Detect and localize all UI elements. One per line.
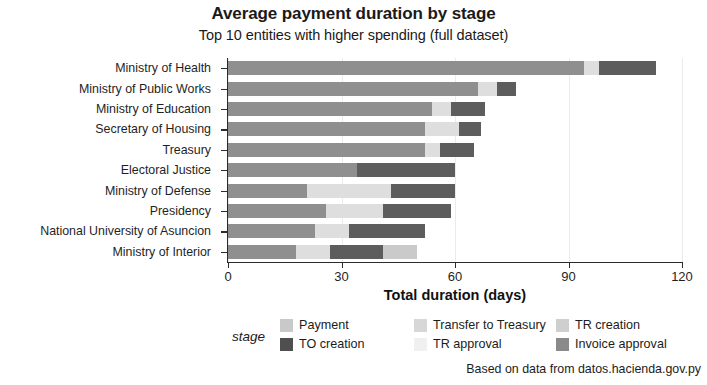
y-axis-tick: [221, 129, 227, 130]
legend-item[interactable]: Transfer to Treasury: [414, 316, 546, 335]
y-axis-tick: [221, 191, 227, 192]
bar-segment[interactable]: [425, 143, 440, 157]
bar-segment[interactable]: [228, 204, 326, 218]
legend-item[interactable]: TO creation: [280, 335, 365, 354]
y-axis-tick-label: Ministry of Health: [0, 62, 220, 74]
bar-segment[interactable]: [228, 122, 425, 136]
bar-segment[interactable]: [307, 184, 390, 198]
stacked-bar[interactable]: [228, 143, 474, 157]
chart-title: Average payment duration by stage: [0, 4, 707, 24]
bar-segment[interactable]: [459, 122, 482, 136]
bar-row: [228, 180, 682, 200]
legend-item-label: TO creation: [299, 338, 365, 351]
stacked-bar[interactable]: [228, 102, 485, 116]
bar-segment[interactable]: [228, 143, 425, 157]
bar-segment[interactable]: [228, 61, 584, 75]
stacked-bar[interactable]: [228, 245, 417, 259]
stacked-bar[interactable]: [228, 163, 455, 177]
bar-segment[interactable]: [451, 102, 485, 116]
x-axis-tick-label: 0: [198, 269, 258, 284]
x-axis-title: Total duration (days): [227, 287, 683, 303]
bar-segment[interactable]: [425, 122, 459, 136]
bar-segment[interactable]: [228, 224, 315, 238]
x-axis-tick-label: 90: [539, 269, 599, 284]
bar-segment[interactable]: [326, 204, 383, 218]
legend-swatch-icon: [414, 319, 427, 332]
y-axis-tick-label: Ministry of Interior: [0, 246, 220, 258]
bar-segment[interactable]: [584, 61, 599, 75]
stacked-bar[interactable]: [228, 61, 656, 75]
y-axis-tick: [221, 252, 227, 253]
stacked-bar[interactable]: [228, 224, 425, 238]
legend-column: PaymentTO creation: [280, 316, 365, 354]
bar-segment[interactable]: [391, 184, 455, 198]
y-axis-tick: [221, 231, 227, 232]
x-axis-tick: [228, 263, 229, 268]
bar-segment[interactable]: [432, 102, 451, 116]
bar-segment[interactable]: [296, 245, 330, 259]
bar-segment[interactable]: [330, 245, 383, 259]
y-axis-tick-label: Ministry of Defense: [0, 185, 220, 197]
y-axis-tick-label: National University of Asuncion: [0, 225, 220, 237]
x-axis-tick-label: 60: [425, 269, 485, 284]
gridline: [682, 58, 683, 262]
bar-segment[interactable]: [228, 245, 296, 259]
bar-segment[interactable]: [228, 163, 357, 177]
bar-segment[interactable]: [383, 204, 451, 218]
x-axis-tick: [682, 263, 683, 268]
y-axis-tick: [221, 211, 227, 212]
y-axis-tick-label: Treasury: [0, 144, 220, 156]
stacked-bar[interactable]: [228, 122, 481, 136]
bar-row: [228, 201, 682, 221]
stacked-bar[interactable]: [228, 184, 455, 198]
stacked-bar[interactable]: [228, 82, 516, 96]
legend-item[interactable]: Payment: [280, 316, 365, 335]
bar-row: [228, 119, 682, 139]
bar-segment[interactable]: [315, 224, 349, 238]
y-axis-tick: [221, 109, 227, 110]
bar-row: [228, 221, 682, 241]
legend-item[interactable]: Invoice approval: [556, 335, 667, 354]
bar-row: [228, 99, 682, 119]
y-axis-tick-label: Ministry of Education: [0, 103, 220, 115]
chart-caption: Based on data from datos.hacienda.gov.py: [466, 362, 701, 376]
bar-segment[interactable]: [478, 82, 497, 96]
legend-item-label: Invoice approval: [575, 338, 667, 351]
legend-item-label: TR approval: [433, 338, 502, 351]
x-axis-tick-label: 30: [312, 269, 372, 284]
legend-column: TR creationInvoice approval: [556, 316, 667, 354]
legend-swatch-icon: [556, 319, 569, 332]
y-axis-tick: [221, 170, 227, 171]
legend-swatch-icon: [414, 338, 427, 351]
bar-segment[interactable]: [349, 224, 425, 238]
bar-row: [228, 58, 682, 78]
legend-item[interactable]: TR approval: [414, 335, 546, 354]
y-axis-tick: [221, 150, 227, 151]
bar-row: [228, 242, 682, 262]
legend-item[interactable]: TR creation: [556, 316, 667, 335]
stacked-bar[interactable]: [228, 204, 451, 218]
bar-segment[interactable]: [497, 82, 516, 96]
bar-segment[interactable]: [440, 143, 474, 157]
bar-segment[interactable]: [228, 184, 307, 198]
x-axis-tick: [455, 263, 456, 268]
bar-segment[interactable]: [357, 163, 455, 177]
x-axis-tick: [569, 263, 570, 268]
x-axis-tick: [342, 263, 343, 268]
chart-container: Average payment duration by stage Top 10…: [0, 0, 707, 385]
y-axis-tick-label: Presidency: [0, 205, 220, 217]
bar-segment[interactable]: [228, 102, 432, 116]
bar-segment[interactable]: [228, 82, 478, 96]
bar-row: [228, 140, 682, 160]
legend-swatch-icon: [280, 319, 293, 332]
legend-item-label: Transfer to Treasury: [433, 319, 546, 332]
y-axis-tick: [221, 89, 227, 90]
y-axis-line: [227, 58, 228, 262]
bar-segment[interactable]: [599, 61, 656, 75]
x-axis-tick-label: 120: [652, 269, 707, 284]
bar-segment[interactable]: [383, 245, 417, 259]
legend-swatch-icon: [556, 338, 569, 351]
y-axis-tick-label: Secretary of Housing: [0, 123, 220, 135]
y-axis-tick: [221, 68, 227, 69]
y-axis-tick-label: Ministry of Public Works: [0, 83, 220, 95]
